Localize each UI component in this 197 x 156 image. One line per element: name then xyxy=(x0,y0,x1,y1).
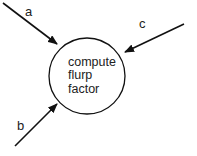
flow-label-a: a xyxy=(25,4,33,19)
input-flow-c: c xyxy=(125,16,184,52)
input-flow-a: a xyxy=(3,3,57,44)
process-label-line-3: factor xyxy=(68,82,99,96)
input-flow-b: b xyxy=(15,104,57,146)
flow-label-c: c xyxy=(139,16,146,31)
dataflow-diagram: compute flurp factor a b c xyxy=(0,0,197,156)
flow-label-b: b xyxy=(17,118,24,133)
process-node: compute flurp factor xyxy=(49,38,125,114)
process-label-line-2: flurp xyxy=(68,68,92,82)
arrow-c-icon xyxy=(125,24,184,52)
process-label-line-1: compute xyxy=(68,55,116,69)
